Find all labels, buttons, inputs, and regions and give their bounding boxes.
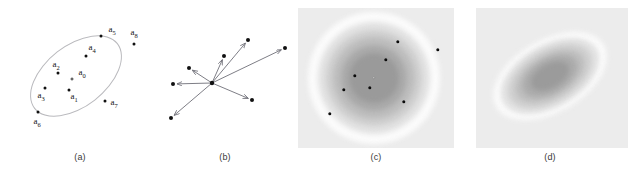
panel-a: a5a8a4a2a0a1a3a7a6 (a): [0, 0, 160, 182]
vector-diagram: [160, 0, 290, 152]
data-point-marker: [85, 55, 88, 58]
panel-a-caption: (a): [0, 152, 160, 162]
figure-four-panels: a5a8a4a2a0a1a3a7a6 (a) (b) (c) (d): [0, 0, 638, 182]
panel-a-plot: a5a8a4a2a0a1a3a7a6: [0, 0, 160, 152]
difference-vector: [174, 83, 212, 115]
density-field-isotropic: [298, 8, 454, 148]
data-point-label: a6: [33, 116, 40, 128]
panel-c: (c): [290, 0, 462, 182]
data-point-label: a1: [70, 91, 77, 103]
vector-origin-marker: [210, 81, 214, 85]
data-point-marker: [100, 35, 103, 38]
mean-point-marker: [71, 78, 74, 81]
data-point-marker: [250, 98, 254, 102]
panel-b-plot: [160, 0, 290, 152]
data-point-marker: [37, 111, 40, 114]
difference-vector: [212, 50, 281, 83]
panel-b-caption: (b): [160, 152, 290, 162]
difference-vector: [212, 83, 248, 98]
data-point-marker: [44, 87, 47, 90]
panel-c-caption: (c): [290, 152, 462, 162]
panel-d-caption: (d): [462, 152, 638, 162]
data-point-label: a8: [130, 27, 137, 39]
difference-vector: [192, 70, 212, 83]
density-field-anisotropic: [476, 8, 628, 148]
data-point-marker: [104, 100, 107, 103]
difference-vector: [177, 83, 212, 84]
data-point-marker: [171, 82, 175, 86]
data-point-marker: [246, 38, 250, 42]
data-point-marker: [187, 66, 191, 70]
data-point-marker: [222, 54, 226, 58]
data-point-marker: [57, 72, 60, 75]
data-point-marker: [283, 46, 287, 50]
data-point-label: a5: [108, 24, 115, 36]
data-point-marker: [169, 116, 173, 120]
data-point-label: a0: [78, 67, 85, 79]
difference-vector: [212, 60, 222, 83]
panel-b: (b): [160, 0, 290, 182]
data-point-label: a7: [110, 97, 117, 109]
data-point-label: a2: [52, 59, 59, 71]
panel-c-plot: [290, 0, 462, 152]
panel-d: (d): [462, 0, 638, 182]
data-point-marker: [436, 48, 439, 51]
data-point-marker: [133, 43, 136, 46]
data-point-label: a4: [88, 42, 95, 54]
difference-vector: [212, 43, 245, 83]
data-point-label: a3: [37, 90, 44, 102]
panel-d-plot: [462, 0, 638, 152]
